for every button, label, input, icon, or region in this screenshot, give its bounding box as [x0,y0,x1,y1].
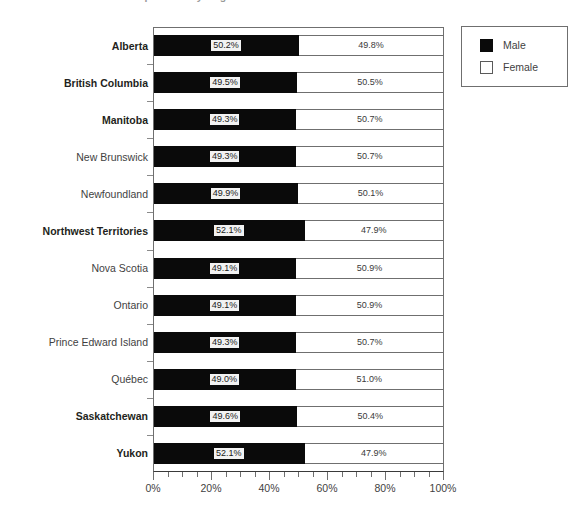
bar-segment-male: 49.1% [153,258,296,279]
bar-segment-female: 50.1% [298,183,444,204]
category-label: Alberta [5,40,153,52]
category-label: Newfoundland [5,188,153,200]
bar-row: 52.1%47.9% [153,443,444,464]
bar-segment-female: 47.9% [305,220,444,241]
value-axis-tick-labels: 0%20%40%60%80%100% [113,482,484,500]
bar-segment-female: 50.9% [296,258,444,279]
bar-row: 49.0%51.0% [153,369,444,390]
bar-row: 49.5%50.5% [153,72,444,93]
bar-row: 49.3%50.7% [153,146,444,167]
plot-area: 50.2%49.8%49.5%50.5%49.3%50.7%49.3%50.7%… [153,27,444,472]
axis-tick-minor [226,472,227,477]
bar-value-label-female: 50.7% [357,151,383,162]
bar-value-label-female: 47.9% [361,448,387,459]
bar-value-label-male: 49.5% [210,77,240,88]
bar-row: 49.1%50.9% [153,258,444,279]
bar-value-label-female: 51.0% [357,374,383,385]
axis-tick-minor [371,472,372,477]
bar-segment-male: 49.3% [153,332,296,353]
axis-tick-major [211,472,212,480]
category-label: Nova Scotia [5,262,153,274]
axis-tick-label: 100% [403,482,483,494]
category-label: Yukon [5,447,153,459]
bar-value-label-male: 49.1% [210,263,240,274]
bar-value-label-female: 50.7% [357,337,383,348]
bar-value-label-male: 49.3% [210,337,240,348]
bar-segment-male: 49.5% [153,72,297,93]
bar-segment-female: 51.0% [296,369,444,390]
legend-label: Male [503,39,526,51]
stacked-bar-chart: Population by Region: Male vs Female Alb… [0,0,583,515]
bar-value-label-male: 49.1% [210,300,240,311]
bar-segment-male: 49.6% [153,406,297,427]
legend-swatch-male-icon [480,39,493,52]
axis-tick-minor [298,472,299,477]
bar-value-label-male: 50.2% [211,40,241,51]
legend-label: Female [503,61,538,73]
bar-value-label-male: 52.1% [214,448,244,459]
bar-row: 49.6%50.4% [153,406,444,427]
bar-segment-female: 50.4% [297,406,444,427]
bar-segment-female: 50.7% [296,109,444,130]
bar-segment-female: 50.5% [297,72,444,93]
bar-row: 52.1%47.9% [153,220,444,241]
bar-value-label-female: 50.1% [358,188,384,199]
axis-tick-minor [356,472,357,477]
bar-segment-male: 49.3% [153,146,296,167]
bar-segment-female: 50.7% [296,146,444,167]
bar-value-label-female: 50.9% [357,263,383,274]
legend-item[interactable]: Male [462,34,567,56]
axis-tick-minor [342,472,343,477]
bar-value-label-male: 49.6% [210,411,240,422]
category-axis-labels: AlbertaBritish ColumbiaManitobaNew Bruns… [0,27,153,472]
axis-tick-minor [429,472,430,477]
legend-swatch-female-icon [480,61,493,74]
bar-segment-female: 50.7% [296,332,444,353]
category-label: Saskatchewan [5,410,153,422]
axis-tick-minor [182,472,183,477]
bar-row: 49.9%50.1% [153,183,444,204]
bar-value-label-female: 50.7% [357,114,383,125]
bar-segment-male: 49.0% [153,369,296,390]
bar-value-label-male: 52.1% [214,225,244,236]
chart-title: Population by Region: Male vs Female [0,0,460,4]
bar-value-label-male: 49.3% [210,151,240,162]
legend-item[interactable]: Female [462,56,567,78]
bar-value-label-male: 49.0% [210,374,240,385]
category-label: Prince Edward Island [5,336,153,348]
bar-segment-male: 52.1% [153,443,305,464]
bar-segment-female: 50.9% [296,295,444,316]
axis-tick-minor [168,472,169,477]
bar-value-label-female: 49.8% [358,40,384,51]
axis-tick-minor [197,472,198,477]
axis-tick-minor [313,472,314,477]
bar-segment-male: 52.1% [153,220,305,241]
bar-row: 50.2%49.8% [153,35,444,56]
bar-value-label-female: 50.5% [357,77,383,88]
axis-tick-major [385,472,386,480]
bar-value-label-male: 49.9% [211,188,241,199]
bar-value-label-female: 50.4% [357,411,383,422]
category-label: New Brunswick [5,151,153,163]
bar-segment-female: 49.8% [299,35,444,56]
bar-segment-male: 49.1% [153,295,296,316]
bar-row: 49.3%50.7% [153,332,444,353]
axis-tick-major [153,472,154,480]
bar-value-label-female: 50.9% [357,300,383,311]
bar-segment-male: 49.9% [153,183,298,204]
category-label: Québec [5,373,153,385]
bar-value-label-male: 49.3% [210,114,240,125]
bar-segment-male: 50.2% [153,35,299,56]
category-label: British Columbia [5,77,153,89]
axis-tick-major [443,472,444,480]
category-label: Manitoba [5,114,153,126]
value-axis-ticks [153,472,444,481]
bar-row: 49.1%50.9% [153,295,444,316]
axis-tick-major [269,472,270,480]
axis-tick-minor [240,472,241,477]
axis-tick-minor [400,472,401,477]
chart-legend: MaleFemale [461,26,568,87]
axis-tick-minor [284,472,285,477]
axis-tick-minor [414,472,415,477]
bar-segment-male: 49.3% [153,109,296,130]
